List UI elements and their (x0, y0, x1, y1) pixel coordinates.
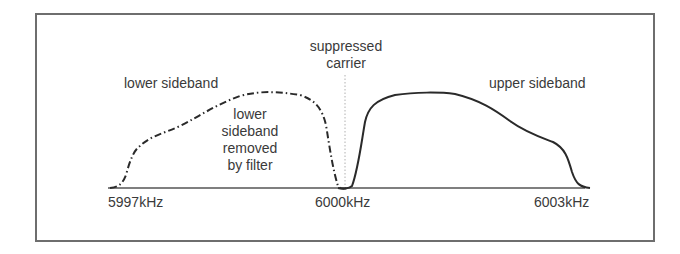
removed-line4: by filter (205, 157, 295, 174)
upper-sideband-curve (338, 93, 590, 189)
tick-label-5997: 5997kHz (108, 194, 163, 211)
suppressed-carrier-label: suppressed carrier (296, 38, 396, 72)
tick-label-6003: 6003kHz (534, 194, 589, 211)
sideband-removed-label: lower sideband removed by filter (205, 106, 295, 174)
removed-line1: lower (205, 106, 295, 123)
removed-line2: sideband (205, 123, 295, 140)
tick-label-6000: 6000kHz (315, 194, 370, 211)
lower-sideband-label: lower sideband (124, 75, 218, 92)
suppressed-carrier-line1: suppressed (296, 38, 396, 55)
removed-line3: removed (205, 140, 295, 157)
upper-sideband-label: upper sideband (489, 75, 586, 92)
suppressed-carrier-line2: carrier (296, 55, 396, 72)
